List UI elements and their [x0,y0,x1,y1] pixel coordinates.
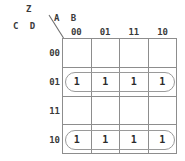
kmap-cell[interactable]: 1 [120,68,149,97]
kmap-cell[interactable] [120,97,149,126]
kmap-grid: 1 1 1 1 1 1 1 1 [62,38,177,154]
column-headers: 00 01 11 10 [62,26,177,38]
kmap-cell[interactable]: 1 [149,125,178,154]
kmap-cell[interactable]: 1 [92,68,121,97]
kmap-cell[interactable]: 1 [63,68,92,97]
kmap-cell[interactable]: 1 [92,125,121,154]
kmap-cell[interactable] [149,39,178,68]
kmap-cell[interactable] [63,39,92,68]
row-header-2: 11 [34,96,60,125]
column-header-2: 11 [120,26,149,38]
row-variables-label: C D [13,21,38,31]
kmap-cell[interactable] [120,39,149,68]
kmap-cell[interactable] [63,97,92,126]
row-header-0: 00 [34,38,60,67]
kmap-cell[interactable]: 1 [120,125,149,154]
row-headers: 00 01 11 10 [34,38,60,154]
kmap-cell[interactable] [92,39,121,68]
kmap-cell[interactable]: 1 [63,125,92,154]
row-header-1: 01 [34,67,60,96]
kmap-cell[interactable]: 1 [149,68,178,97]
kmap-cell[interactable] [149,97,178,126]
column-header-0: 00 [62,26,91,38]
output-variable-label: Z [26,4,31,14]
row-header-3: 10 [34,125,60,154]
column-header-3: 10 [148,26,177,38]
column-header-1: 01 [91,26,120,38]
kmap-cell[interactable] [92,97,121,126]
karnaugh-map: Z C D A B 00 01 11 10 00 01 11 10 1 1 1 … [0,0,185,161]
